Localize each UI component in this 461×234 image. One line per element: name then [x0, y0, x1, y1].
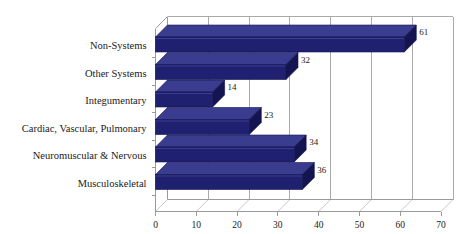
x-tick-label: 60	[395, 220, 405, 230]
category-label: Integumentary	[85, 95, 147, 106]
bar-value-label: 61	[419, 27, 428, 37]
bar-top-face	[156, 163, 315, 175]
bar-chart: Non-SystemsOther SystemsIntegumentaryCar…	[0, 0, 461, 234]
bar-front-face	[156, 147, 295, 162]
bar-front-face	[156, 37, 405, 52]
bar-top-face	[156, 53, 299, 65]
bar-front-face	[156, 120, 250, 135]
x-tick-label: 40	[314, 220, 324, 230]
bar	[156, 135, 307, 162]
bar-value-label: 32	[301, 55, 310, 65]
bar-value-label: 36	[317, 165, 327, 175]
bar	[156, 80, 225, 107]
bar	[156, 53, 299, 80]
bar-front-face	[156, 92, 213, 107]
bar	[156, 108, 262, 135]
x-tick-label: 50	[355, 220, 365, 230]
bar-top-face	[156, 25, 417, 37]
bar-front-face	[156, 175, 303, 190]
bar	[156, 163, 315, 190]
x-tick-label: 30	[273, 220, 283, 230]
category-label: Neuromuscular & Nervous	[33, 150, 147, 161]
bar-value-label: 14	[228, 82, 238, 92]
x-tick-label: 10	[192, 220, 202, 230]
chart-canvas: Non-SystemsOther SystemsIntegumentaryCar…	[0, 0, 461, 234]
bar-value-label: 34	[309, 137, 319, 147]
category-label: Cardiac, Vascular, Pulmonary	[22, 123, 148, 134]
category-label: Non-Systems	[90, 40, 147, 51]
bar-value-label: 23	[264, 110, 274, 120]
bar-top-face	[156, 135, 307, 147]
category-label: Other Systems	[85, 68, 147, 79]
category-label: Musculoskeletal	[78, 178, 147, 189]
x-tick-label: 20	[232, 220, 242, 230]
bar-front-face	[156, 65, 287, 80]
bar-top-face	[156, 108, 262, 120]
x-tick-label: 70	[436, 220, 446, 230]
bar	[156, 25, 417, 52]
x-tick-label: 0	[153, 220, 158, 230]
